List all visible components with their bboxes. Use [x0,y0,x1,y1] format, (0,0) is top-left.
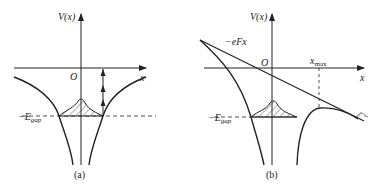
panel-b: V(x) x O −eFx xmax −Egap (b) [200,11,368,181]
v-axis-label: V(x) [250,11,268,23]
arrow-head-icon [101,85,106,92]
left-potential-curve [200,40,264,165]
origin-label: O [70,71,77,82]
gap-label: −Egap [208,112,232,125]
wavefunction-bump [59,99,103,116]
origin-label: O [261,57,268,68]
right-potential-curve [89,77,146,165]
x-axis-label: x [359,72,365,83]
figure: V(x) x O −Egap (a) V(x) x O −eFx xmax −E… [0,0,381,194]
arrow-head-icon [101,69,106,76]
xmax-label: xmax [309,55,327,68]
field-label: −eFx [225,36,247,47]
panel-a: V(x) x O −Egap (a) [14,11,156,181]
barrier-curve [297,108,358,165]
v-axis-label: V(x) [58,11,76,23]
panel-b-caption: (b) [266,169,278,181]
panel-a-caption: (a) [74,169,85,181]
x-axis-label: x [139,72,145,83]
diagram-canvas: V(x) x O −Egap (a) V(x) x O −eFx xmax −E… [0,0,381,194]
arrow-head-icon [101,99,106,106]
field-line [200,40,364,121]
wavefunction-bump [251,101,297,117]
gap-label: −Egap [18,111,42,124]
tunneled-wavepacket [356,113,368,117]
